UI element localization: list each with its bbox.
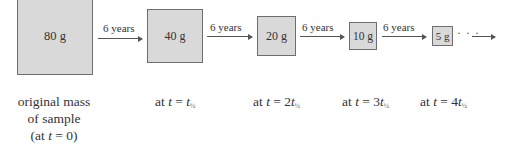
continuation-dots: · · · [457,26,480,41]
arrow-label: 6 years [103,22,134,34]
arrow-label: 6 years [302,21,333,33]
mass-label: 40 g [165,29,186,44]
caption-half-life-1: at t = t½ [155,93,195,115]
mass-label: 20 g [266,29,287,44]
mass-box-20g: 20 g [257,16,296,56]
arrow-label: 6 years [210,21,241,33]
arrow-right-icon [98,38,142,39]
caption-half-life-3: at t = 3t½ [342,93,389,115]
mass-box-40g: 40 g [147,9,203,63]
mass-label: 10 g [353,30,373,42]
caption-line: original mass [8,93,100,110]
caption-half-life-2: at t = 2t½ [253,93,300,115]
mass-box-10g: 10 g [349,22,377,50]
mass-box-5g: 5 g [432,26,453,46]
arrow-right-icon [472,36,495,37]
mass-box-80g: 80 g [17,0,93,75]
arrow-right-icon [207,36,252,37]
caption-half-life-4: at t = 4t½ [420,93,467,115]
caption-original: original mass of sample (at t = 0) [8,93,100,144]
arrow-right-icon [382,36,426,37]
arrow-label: 6 years [383,21,414,33]
mass-label: 80 g [44,29,66,44]
caption-line: (at t = 0) [8,127,100,144]
mass-label: 5 g [436,30,450,42]
caption-line: of sample [8,110,100,127]
arrow-right-icon [300,36,344,37]
